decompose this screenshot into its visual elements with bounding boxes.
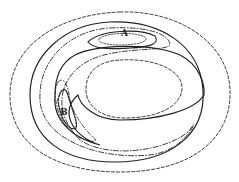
label-b: B (60, 107, 68, 117)
contour-lines (0, 0, 239, 182)
solid-contour-1 (30, 22, 203, 162)
solid-contour-2 (55, 46, 204, 145)
inner-dashed-contour (86, 60, 182, 118)
contour-diagram: A B (0, 0, 239, 182)
label-a: A (121, 28, 128, 38)
